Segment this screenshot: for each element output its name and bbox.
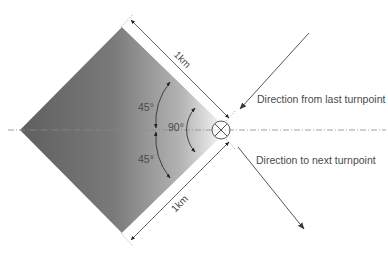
incoming-direction-label: Direction from last turnpoint [257,93,385,105]
turnpoint-sector-diagram: 1km 1km 45° 45° 90° Direction from last … [0,0,388,258]
angle-label-upper: 45° [138,101,154,113]
outgoing-direction-label: Direction to next turnpoint [256,154,376,166]
turnpoint-marker-icon [212,121,230,139]
angle-label-lower: 45° [138,153,154,165]
angle-label-inner: 90° [168,121,184,133]
